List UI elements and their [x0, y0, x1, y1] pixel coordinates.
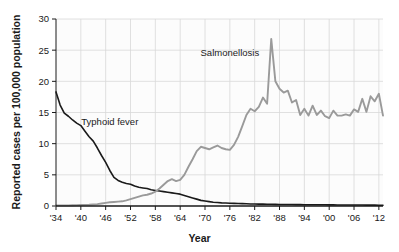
svg-text:'58: '58 — [149, 212, 161, 223]
svg-text:'06: '06 — [348, 212, 360, 223]
svg-text:'82: '82 — [248, 212, 260, 223]
svg-text:'12: '12 — [373, 212, 385, 223]
svg-text:10: 10 — [38, 138, 49, 149]
svg-text:30: 30 — [38, 13, 49, 24]
svg-text:'52: '52 — [124, 212, 136, 223]
svg-text:25: 25 — [38, 45, 49, 56]
svg-text:Salmonellosis: Salmonellosis — [201, 47, 260, 58]
y-tick-labels: 051015202530 — [38, 13, 49, 211]
chart-figure: Reported cases per 100,000 population Ye… — [0, 0, 399, 252]
svg-text:'34: '34 — [50, 212, 62, 223]
y-axis-ticks — [52, 19, 56, 206]
x-tick-labels: '34'40'46'52'58'64'70'76'82'88'94'00'06'… — [50, 212, 385, 223]
svg-text:'76: '76 — [224, 212, 236, 223]
svg-text:'70: '70 — [199, 212, 211, 223]
svg-text:'94: '94 — [298, 212, 310, 223]
svg-text:5: 5 — [44, 169, 49, 180]
svg-text:Typhoid fever: Typhoid fever — [81, 116, 138, 127]
svg-text:'40: '40 — [75, 212, 87, 223]
svg-text:'88: '88 — [273, 212, 285, 223]
svg-text:15: 15 — [38, 107, 49, 118]
svg-text:'00: '00 — [323, 212, 335, 223]
svg-text:20: 20 — [38, 76, 49, 87]
svg-text:'64: '64 — [174, 212, 186, 223]
svg-text:0: 0 — [44, 200, 49, 211]
svg-text:'46: '46 — [99, 212, 111, 223]
line-chart-plot: 051015202530 '34'40'46'52'58'64'70'76'82… — [0, 0, 399, 252]
